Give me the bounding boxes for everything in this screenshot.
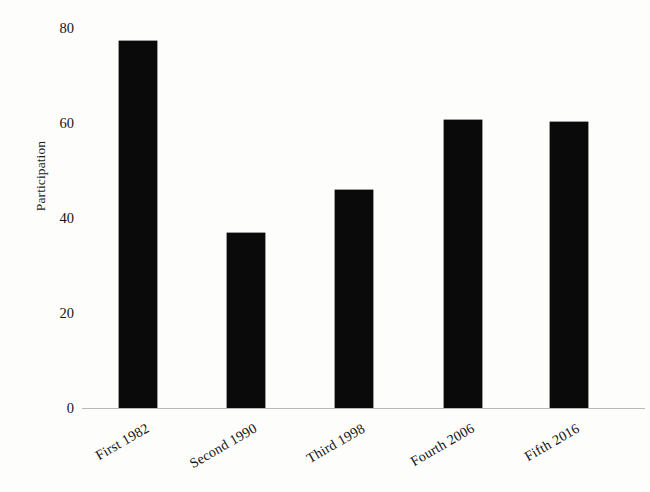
plot-area [82,14,645,408]
y-axis-tick-label: 20 [30,306,74,321]
x-axis-tick-label: First 1982 [93,420,152,463]
y-axis-tick-label: 60 [30,116,74,131]
x-axis-tick-label: Second 1990 [187,420,260,471]
x-axis-tick-label: Fourth 2006 [408,420,478,469]
bar [550,122,588,408]
y-axis-tick-label: 80 [30,21,74,36]
bar-chart-figure: Participation 806040200 First 1982Second… [0,0,650,492]
bar [335,190,373,408]
bar [119,41,157,408]
bar [444,120,482,408]
y-axis-tick-label: 40 [30,211,74,226]
x-axis-tick-label: Third 1998 [304,420,368,466]
x-axis-tick-label: Fifth 2016 [522,420,583,464]
bar [227,233,265,408]
x-axis-tick-labels: First 1982Second 1990Third 1998Fourth 20… [0,408,650,492]
